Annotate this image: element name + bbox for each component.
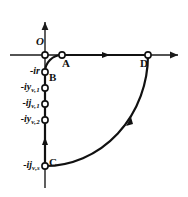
arc-D-C [45, 55, 148, 166]
real-axis-arrow-icon [170, 52, 178, 59]
contour-path [45, 55, 148, 166]
point-label-A: A [62, 58, 70, 69]
axis-tick-label-j-v-s: -ijv,s [0, 160, 40, 172]
axis-tick-text: -ij [23, 159, 32, 170]
axis-tick-label-y-v-1: -iyv,1 [0, 82, 40, 94]
axis-tick-text: -ir [30, 65, 40, 76]
axis-tick-sub: v,s [32, 164, 40, 172]
node-tick-y-v-1 [42, 85, 48, 91]
node-tick-j-v-1 [42, 101, 48, 107]
node-tick-y-v-2 [42, 117, 48, 123]
origin-label: O [36, 36, 44, 47]
arrow-marker-segment-B-C [42, 137, 48, 145]
axis-tick-sub: v,2 [31, 118, 40, 126]
point-label-B: B [49, 72, 56, 83]
point-label-D: D [140, 58, 148, 69]
point-label-C: C [49, 157, 57, 168]
axis-tick-text: -iy [21, 81, 32, 92]
axis-tick-label-ir: -ir [0, 66, 40, 78]
axis-tick-text: -iy [21, 113, 32, 124]
arrow-marker-segment-A-D [102, 52, 110, 58]
axis-tick-sub: v,1 [31, 102, 40, 110]
node-B [42, 69, 48, 75]
axis-tick-sub: v,1 [31, 86, 40, 94]
imaginary-axis-arrow-icon [42, 22, 49, 30]
node-O [42, 52, 48, 58]
complex-plane-locus-figure: O A B C D -ir -iyv,1 -ijv,1 -iyv,2 -ijv,… [0, 0, 188, 197]
axis-tick-text: -ij [22, 97, 31, 108]
axis-tick-label-j-v-1: -ijv,1 [0, 98, 40, 110]
node-C [42, 163, 48, 169]
axis-tick-label-y-v-2: -iyv,2 [0, 114, 40, 126]
